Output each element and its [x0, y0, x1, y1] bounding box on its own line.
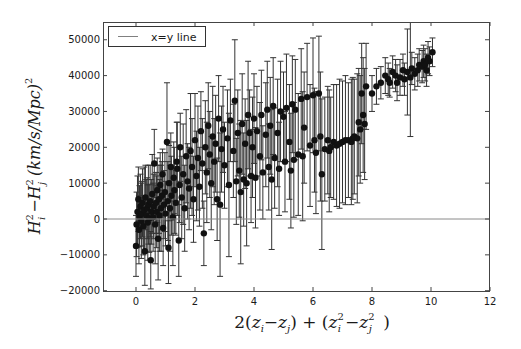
scatter-chart: 024681012 −20000−10000010000200003000040…: [0, 0, 521, 349]
x-tick-label: 10: [425, 296, 438, 307]
data-point: [139, 200, 145, 206]
data-point: [142, 248, 148, 254]
data-points-layer: [133, 49, 436, 263]
data-point: [280, 114, 286, 120]
data-point: [162, 189, 168, 195]
data-point: [164, 139, 170, 145]
data-point: [202, 144, 208, 150]
data-point: [313, 149, 319, 155]
data-point: [304, 94, 310, 100]
data-point: [199, 160, 205, 166]
y-tick-label: 10000: [68, 178, 100, 189]
data-point: [369, 90, 375, 96]
data-point: [328, 144, 334, 150]
data-point: [238, 189, 244, 195]
data-point: [282, 158, 288, 164]
data-point: [215, 115, 221, 121]
data-point: [165, 244, 171, 250]
data-point: [226, 182, 232, 188]
data-point: [236, 167, 242, 173]
y-tick-label: 40000: [68, 70, 100, 81]
data-point: [289, 101, 295, 107]
svg-text:H2i−H2j(km/s/Mpc)2: H2i−H2j(km/s/Mpc)2: [23, 78, 47, 236]
data-point: [210, 133, 216, 139]
x-tick-label: 0: [133, 296, 139, 307]
data-point: [196, 184, 202, 190]
x-tick-label: 2: [192, 296, 198, 307]
data-point: [316, 90, 322, 96]
data-point: [227, 117, 233, 123]
data-point: [160, 225, 166, 231]
data-point: [292, 106, 298, 112]
ylabel-H-i: H: [25, 219, 44, 235]
data-point: [230, 148, 236, 154]
data-point: [181, 205, 187, 211]
x-axis-label: 2(zi−zj) + (z2i−z2j ): [234, 311, 390, 334]
data-point: [201, 230, 207, 236]
data-point: [204, 169, 210, 175]
data-point: [218, 146, 224, 152]
data-point: [173, 200, 179, 206]
data-point: [220, 126, 226, 132]
data-point: [192, 137, 198, 143]
data-point: [319, 171, 325, 177]
data-point: [246, 130, 252, 136]
data-point: [252, 175, 258, 181]
y-tick-label: −20000: [60, 285, 100, 296]
data-point: [208, 180, 214, 186]
data-point: [183, 153, 189, 159]
data-point: [152, 221, 158, 227]
data-point: [186, 185, 192, 191]
data-point: [207, 151, 213, 157]
y-tick-label: 0: [94, 214, 100, 225]
data-point: [189, 164, 195, 170]
data-point: [176, 182, 182, 188]
data-point: [232, 97, 238, 103]
x-tick-label: 8: [369, 296, 375, 307]
data-point: [325, 137, 331, 143]
data-point: [277, 108, 283, 114]
errorbars-layer: [133, 22, 435, 289]
data-point: [179, 194, 185, 200]
data-point: [168, 164, 174, 170]
data-point: [221, 162, 227, 168]
data-point: [217, 201, 223, 207]
y-axis-label: H2i−H2j(km/s/Mpc)2: [23, 78, 47, 236]
data-point: [298, 96, 304, 102]
data-point: [426, 58, 432, 64]
x-tick-label: 4: [251, 296, 257, 307]
data-point: [360, 112, 366, 118]
data-point: [409, 65, 415, 71]
data-point: [174, 158, 180, 164]
data-point: [291, 157, 297, 163]
data-point: [423, 67, 429, 73]
data-point: [288, 167, 294, 173]
data-point: [249, 144, 255, 150]
data-point: [133, 243, 139, 249]
data-point: [235, 130, 241, 136]
data-point: [171, 175, 177, 181]
data-point: [267, 123, 273, 129]
data-point: [429, 49, 435, 55]
data-point: [301, 124, 307, 130]
data-point: [224, 135, 230, 141]
data-point: [211, 158, 217, 164]
data-point: [245, 112, 251, 118]
data-point: [251, 115, 257, 121]
data-point: [257, 153, 263, 159]
data-point: [148, 257, 154, 263]
data-point: [167, 205, 173, 211]
data-point: [180, 171, 186, 177]
data-point: [269, 176, 275, 182]
data-point: [151, 160, 157, 166]
data-point: [205, 123, 211, 129]
data-point: [154, 187, 160, 193]
data-point: [162, 210, 168, 216]
data-point: [177, 144, 183, 150]
data-point: [212, 141, 218, 147]
data-point: [174, 166, 180, 172]
data-point: [387, 80, 393, 86]
data-point: [299, 153, 305, 159]
data-point: [165, 198, 171, 204]
data-point: [147, 198, 153, 204]
